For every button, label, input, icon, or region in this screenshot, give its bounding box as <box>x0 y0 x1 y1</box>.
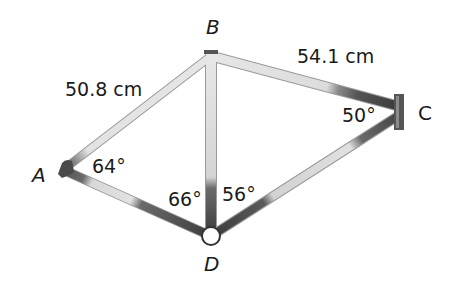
angle-adb-label: 66° <box>168 190 202 209</box>
vertex-label-d: D <box>204 254 219 274</box>
side-ab-length: 50.8 cm <box>65 80 142 99</box>
joint-b-cap <box>204 50 218 54</box>
side-bc-length: 54.1 cm <box>297 47 374 66</box>
angle-bdc-label: 56° <box>222 185 256 204</box>
angle-c-label: 50° <box>342 106 376 125</box>
tube-ab <box>68 56 211 166</box>
bicycle-frame-diagram: B C A D 50.8 cm 54.1 cm 64° 50° 66° 56° <box>0 0 449 290</box>
joint-d-bracket <box>202 227 220 245</box>
vertex-label-a: A <box>32 165 46 185</box>
angle-a-label: 64° <box>92 157 126 176</box>
vertex-label-b: B <box>206 17 220 37</box>
tube-dc <box>211 116 398 236</box>
frame-drawing <box>0 0 449 290</box>
vertex-label-c: C <box>418 103 432 123</box>
